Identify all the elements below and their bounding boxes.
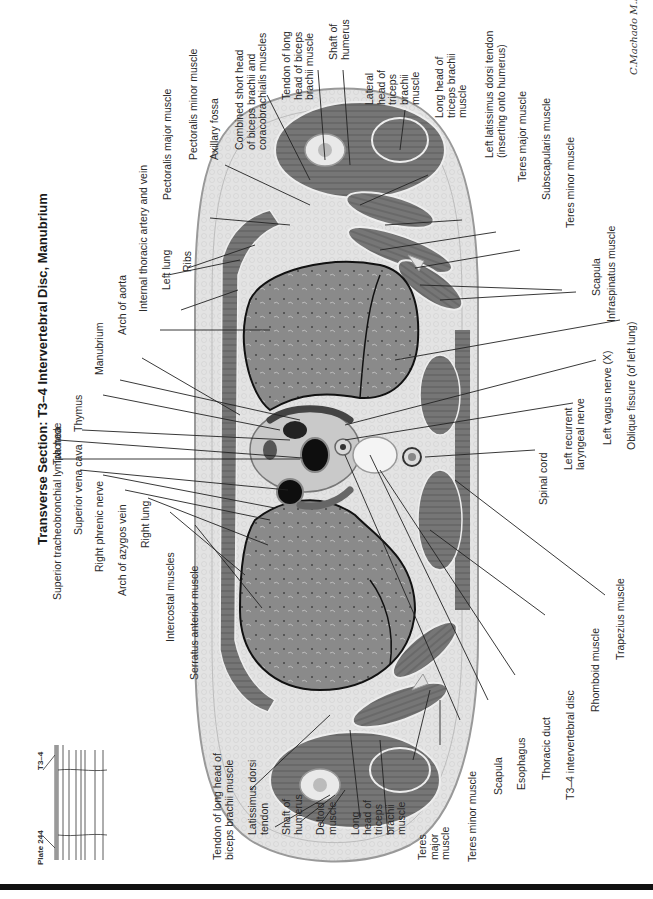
label-thymus: Thymus bbox=[73, 395, 85, 432]
label-left-latissimus-dorsi-tendon: Left latissimus dorsi tendon (inserting … bbox=[484, 31, 507, 158]
label-deltoid-muscle: Deltoid muscle bbox=[315, 802, 338, 835]
label-intercostal-muscles: Intercostal muscles bbox=[165, 552, 177, 642]
label-left-recurrent-laryngeal-nerve: Left recurrent laryngeal nerve bbox=[563, 398, 586, 470]
trachea-shape bbox=[301, 438, 329, 472]
plate-title: Transverse Section: T3–4 Intervertebral … bbox=[35, 193, 50, 545]
plate-number: Plate 244 bbox=[36, 830, 45, 865]
label-oblique-fissure: Oblique fissure (of left lung) bbox=[626, 322, 638, 450]
label-manubrium: Manubrium bbox=[94, 322, 106, 375]
label-pectoralis-minor-muscle: Pectoralis minor muscle bbox=[188, 49, 200, 160]
svc-shape bbox=[277, 479, 303, 505]
label-teres-minor-muscle-left: Teres minor muscle bbox=[565, 137, 577, 228]
aorta-lumen bbox=[283, 421, 307, 439]
label-thoracic-duct: Thoracic duct bbox=[541, 717, 553, 780]
label-long-head-triceps-right: Long head of triceps brachii muscle bbox=[350, 800, 408, 835]
artist-signature: C.Machado M.D. bbox=[628, 0, 639, 75]
left-lung-shape bbox=[244, 262, 418, 410]
label-spinal-cord: Spinal cord bbox=[538, 452, 550, 505]
label-rhomboid-muscle: Rhomboid muscle bbox=[590, 628, 602, 712]
label-teres-major-muscle-left: Teres major muscle bbox=[517, 91, 529, 182]
label-serratus-anterior-muscle: Serratus anterior muscle bbox=[189, 566, 201, 680]
label-infraspinatus-muscle: Infraspinatus muscle bbox=[606, 226, 618, 322]
anatomy-plate: Plate 244 T3–4 Transverse Section: T3–4 … bbox=[0, 0, 653, 899]
label-scapula-right: Scapula bbox=[493, 757, 505, 795]
label-tendon-long-head-biceps-left: Tendon of long head of biceps brachii mu… bbox=[281, 31, 316, 100]
label-right-lung: Right lung bbox=[140, 501, 152, 548]
label-arch-of-aorta: Arch of aorta bbox=[117, 275, 129, 335]
label-axillary-fossa: Axillary fossa bbox=[209, 98, 221, 160]
level-label: T3–4 bbox=[36, 752, 45, 770]
label-internal-thoracic-artery-and-vein: Internal thoracic artery and vein bbox=[138, 165, 150, 312]
label-combined-short-head: Combined short head of biceps brachii an… bbox=[234, 33, 269, 150]
label-left-lung: Left lung bbox=[161, 250, 173, 290]
label-arch-of-azygos-vein: Arch of azygos vein bbox=[117, 504, 129, 596]
label-tendon-long-head-biceps-right: Tendon of long head of biceps brachii mu… bbox=[212, 753, 235, 860]
level-reference-diagram bbox=[15, 740, 110, 870]
label-trapezius-muscle: Trapezius muscle bbox=[615, 578, 627, 660]
label-superior-vena-cava: Superior vena cava bbox=[73, 445, 85, 535]
label-shaft-of-humerus-left: Shaft of humerus bbox=[328, 19, 351, 60]
label-ribs: Ribs bbox=[182, 251, 194, 272]
label-teres-minor-muscle-right: Teres minor muscle bbox=[467, 771, 479, 862]
page-bottom-rule bbox=[0, 884, 653, 890]
label-latissimus-dorsi-tendon: Latissimus dorsi tendon bbox=[247, 760, 270, 835]
label-pectoralis-major-muscle: Pectoralis major muscle bbox=[162, 89, 174, 200]
label-shaft-of-humerus-right: Shaft of humerus bbox=[281, 794, 304, 835]
label-esophagus: Esophagus bbox=[516, 737, 528, 790]
label-right-phrenic-nerve: Right phrenic nerve bbox=[94, 481, 106, 572]
label-left-vagus-nerve: Left vagus nerve (X) bbox=[602, 350, 614, 445]
label-trachea: Trachea bbox=[52, 427, 64, 465]
label-scapula-left: Scapula bbox=[591, 258, 603, 296]
label-t3-4-intervertebral-disc: T3–4 intervertebral disc bbox=[565, 690, 577, 800]
label-long-head-triceps-left: Long head of triceps brachii muscle bbox=[434, 53, 469, 118]
label-subscapularis-muscle: Subscapularis muscle bbox=[541, 98, 553, 200]
label-lateral-head-triceps: Lateral head of triceps brachii muscle bbox=[364, 70, 422, 105]
intervertebral-disc-shape bbox=[353, 437, 397, 473]
label-teres-major-muscle-right: Teres major muscle bbox=[417, 827, 452, 860]
